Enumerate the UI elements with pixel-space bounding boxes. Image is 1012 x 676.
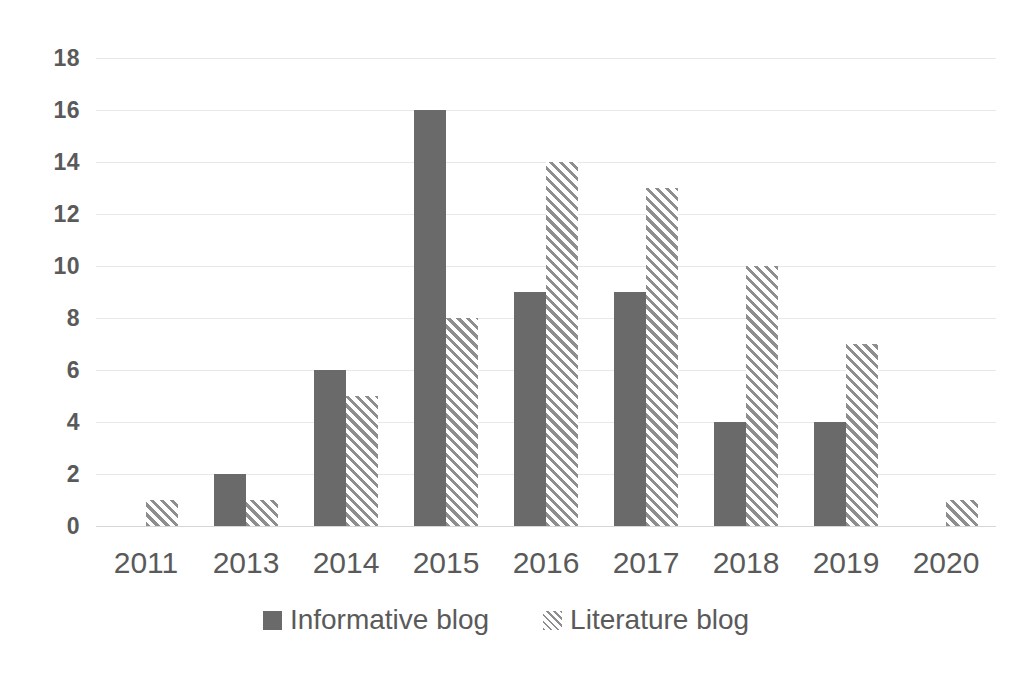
bar-informative-blog-2019[interactable] (814, 422, 846, 526)
bar-informative-blog-2015[interactable] (414, 110, 446, 526)
legend-item[interactable]: Literature blog (543, 606, 749, 634)
bar-informative-blog-2013[interactable] (214, 474, 246, 526)
bar-group (596, 58, 696, 526)
x-axis-tick-label: 2015 (396, 540, 496, 586)
bar-informative-blog-2014[interactable] (314, 370, 346, 526)
bar-group (96, 58, 196, 526)
legend-item-label: Literature blog (570, 606, 749, 634)
x-axis-tick-label: 2019 (796, 540, 896, 586)
y-axis-tick-label: 2 (0, 463, 80, 486)
bar-group (196, 58, 296, 526)
bar-literature-blog-2011[interactable] (146, 500, 178, 526)
bar-literature-blog-2018[interactable] (746, 266, 778, 526)
y-axis-tick-label: 16 (0, 99, 80, 122)
x-axis-tick-label: 2018 (696, 540, 796, 586)
y-axis: 024681012141618 (0, 58, 80, 526)
axis-baseline (96, 526, 996, 527)
bar-chart: 024681012141618 201120132014201520162017… (0, 0, 1012, 676)
legend-item[interactable]: Informative blog (263, 606, 489, 634)
x-axis-tick-label: 2013 (196, 540, 296, 586)
bar-informative-blog-2016[interactable] (514, 292, 546, 526)
bar-group (696, 58, 796, 526)
chart-legend: Informative blogLiterature blog (0, 598, 1012, 642)
y-axis-tick-label: 6 (0, 359, 80, 382)
bar-literature-blog-2016[interactable] (546, 162, 578, 526)
bar-group (296, 58, 396, 526)
x-axis-tick-label: 2016 (496, 540, 596, 586)
y-axis-tick-label: 10 (0, 255, 80, 278)
bar-literature-blog-2013[interactable] (246, 500, 278, 526)
bar-literature-blog-2014[interactable] (346, 396, 378, 526)
bar-group (796, 58, 896, 526)
bar-literature-blog-2015[interactable] (446, 318, 478, 526)
bar-literature-blog-2020[interactable] (946, 500, 978, 526)
x-axis-tick-label: 2017 (596, 540, 696, 586)
y-axis-tick-label: 18 (0, 47, 80, 70)
bar-literature-blog-2019[interactable] (846, 344, 878, 526)
x-axis: 201120132014201520162017201820192020 (96, 540, 996, 586)
bar-group (496, 58, 596, 526)
x-axis-tick-label: 2011 (96, 540, 196, 586)
bar-informative-blog-2018[interactable] (714, 422, 746, 526)
y-axis-tick-label: 0 (0, 515, 80, 538)
legend-item-label: Informative blog (290, 606, 489, 634)
bar-literature-blog-2017[interactable] (646, 188, 678, 526)
y-axis-tick-label: 12 (0, 203, 80, 226)
y-axis-tick-label: 14 (0, 151, 80, 174)
y-axis-tick-label: 8 (0, 307, 80, 330)
solid-square-swatch (263, 611, 282, 630)
x-axis-tick-label: 2014 (296, 540, 396, 586)
bar-informative-blog-2017[interactable] (614, 292, 646, 526)
y-axis-tick-label: 4 (0, 411, 80, 434)
bar-groups (96, 58, 996, 526)
bar-group (896, 58, 996, 526)
hatched-square-swatch (543, 611, 562, 630)
bar-group (396, 58, 496, 526)
x-axis-tick-label: 2020 (896, 540, 996, 586)
